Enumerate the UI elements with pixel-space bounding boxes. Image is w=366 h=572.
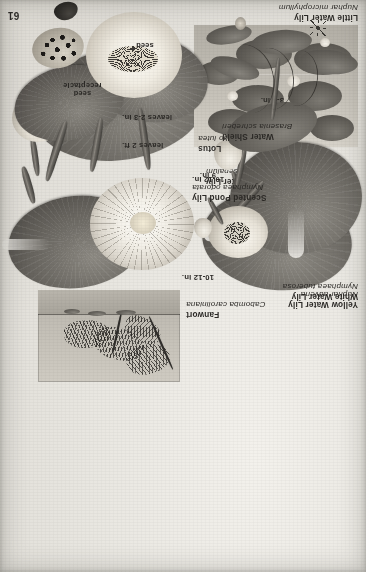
floating-leaf (88, 311, 106, 316)
scanned-book-page: 61 Western Water Lily Nuphar polysepalum… (0, 0, 366, 572)
callout-seed: seed (136, 40, 154, 49)
label-scented-pond-lily: Scented Pond Lily Nymphaea odorata 10-12… (192, 174, 266, 202)
leaf-cleft (288, 208, 304, 258)
flower-center (130, 212, 156, 234)
illustration-fanwort (38, 290, 180, 382)
label-yellow-water-lily: Yellow Water Lily Nuphar advena (288, 290, 358, 309)
water-shield-flower (310, 20, 326, 36)
leaf-cleft (2, 239, 50, 250)
water-surface-line (38, 314, 180, 315)
illustration-lotus (2, 4, 212, 172)
floating-leaf (116, 310, 136, 315)
water-shield-bud (235, 17, 246, 30)
illustration-scented-pond-lily (4, 166, 200, 296)
dimension-lotus: leaves 2 ft. (122, 140, 163, 149)
label-water-shield: Water Shield Brasenia schreberi (222, 122, 292, 141)
flower-stigma (224, 222, 250, 244)
flower-stamens (108, 46, 158, 72)
botanical-plate: 61 Western Water Lily Nuphar polysepalum… (0, 0, 366, 572)
lotus-seed (52, 0, 80, 23)
label-fanwort: Fanwort Cabomba caroliniana (186, 300, 265, 319)
callout-seed-receptacle: seed receptacle (63, 80, 102, 97)
dimension-water-shield: leaves 2-3 in. (122, 112, 172, 121)
floating-leaf (64, 309, 80, 314)
